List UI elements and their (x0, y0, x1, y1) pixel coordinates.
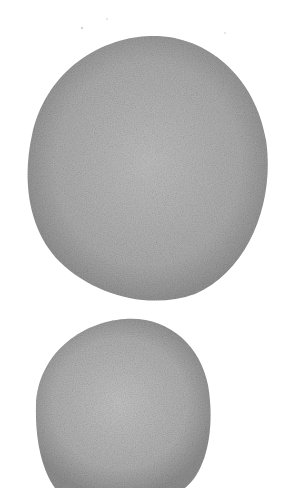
speck (81, 27, 84, 30)
speck (106, 18, 108, 20)
speck (224, 32, 226, 34)
micrograph-scene (0, 0, 290, 488)
upper-cell (28, 36, 268, 301)
